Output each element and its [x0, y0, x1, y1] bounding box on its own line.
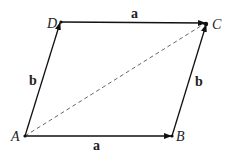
label-b-right: b	[195, 74, 203, 89]
label-a: A	[10, 129, 20, 144]
label-b-left: b	[29, 73, 37, 88]
vertex-d-dot	[59, 20, 62, 23]
label-d: D	[46, 16, 57, 31]
label-c: C	[212, 17, 222, 32]
label-a-bottom: a	[93, 138, 100, 151]
vertex-a-dot	[23, 134, 26, 137]
parallelogram-diagram: A B C D a a b b	[0, 0, 235, 151]
label-a-top: a	[131, 6, 138, 21]
edge-dc	[61, 22, 205, 23]
vertex-c-dot	[204, 22, 208, 26]
vertex-b-dot	[170, 134, 173, 137]
label-b: B	[176, 129, 185, 144]
